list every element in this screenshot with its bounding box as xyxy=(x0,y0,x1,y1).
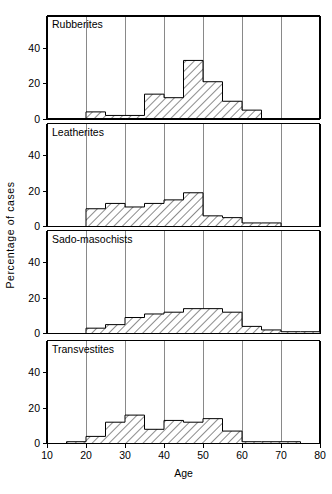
panel-leatherites: 02040Leatherites xyxy=(28,124,320,233)
x-tick-label-50: 50 xyxy=(197,449,209,461)
y-tick-label-40: 40 xyxy=(28,366,40,378)
panel-rubberites: 02040Rubberites xyxy=(28,16,320,125)
y-tick-label-40: 40 xyxy=(28,149,40,161)
panel-title-transvestites: Transvestites xyxy=(52,343,114,355)
histogram-bars xyxy=(47,193,320,227)
histogram-bars xyxy=(47,415,320,443)
x-tick-label-10: 10 xyxy=(41,449,53,461)
y-axis-title: Percentage of cases xyxy=(4,181,16,288)
histogram-bars xyxy=(47,60,320,119)
chart-svg: 02040Rubberites02040Leatherites02040Sado… xyxy=(0,0,332,494)
panel-title-rubberites: Rubberites xyxy=(52,18,103,30)
panel-title-leatherites: Leatherites xyxy=(52,126,104,138)
x-tick-label-80: 80 xyxy=(314,449,326,461)
y-tick-label-20: 20 xyxy=(28,77,40,89)
x-tick-label-30: 30 xyxy=(119,449,131,461)
y-tick-label-0: 0 xyxy=(34,437,40,449)
y-tick-label-20: 20 xyxy=(28,292,40,304)
x-tick-label-70: 70 xyxy=(275,449,287,461)
panel-title-sado-masochists: Sado-masochists xyxy=(52,233,133,245)
y-tick-label-40: 40 xyxy=(28,42,40,54)
panel-sado-masochists: 02040Sado-masochists xyxy=(28,231,320,340)
y-tick-label-0: 0 xyxy=(34,327,40,339)
x-axis: 1020304050607080 xyxy=(41,444,326,461)
y-tick-label-20: 20 xyxy=(28,402,40,414)
x-tick-label-40: 40 xyxy=(158,449,170,461)
x-tick-label-20: 20 xyxy=(80,449,92,461)
panel-transvestites: 02040Transvestites xyxy=(28,341,320,450)
histogram-bars xyxy=(47,309,320,334)
y-tick-label-0: 0 xyxy=(34,220,40,232)
x-tick-label-60: 60 xyxy=(236,449,248,461)
y-tick-label-40: 40 xyxy=(28,256,40,268)
histogram-figure: 02040Rubberites02040Leatherites02040Sado… xyxy=(0,0,332,494)
y-tick-label-0: 0 xyxy=(34,113,40,125)
y-tick-label-20: 20 xyxy=(28,185,40,197)
x-axis-title: Age xyxy=(174,467,193,479)
